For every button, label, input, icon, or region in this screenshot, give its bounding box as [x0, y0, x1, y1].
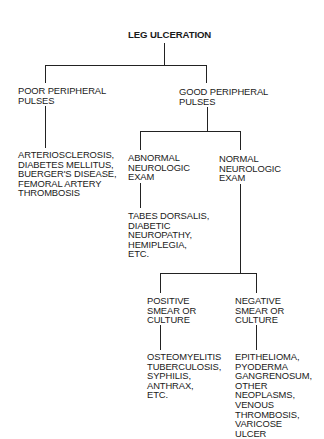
abnormal-neuro-node: ABNORMAL NEUROLOGIC EXAM	[128, 153, 190, 182]
connector-root-down	[164, 43, 165, 65]
poor-pulses-causes: ARTERIOSCLEROSIS, DIABETES MELLITUS, BUE…	[18, 150, 116, 198]
connector-positive-to-causes	[160, 325, 161, 350]
normal-neuro-node: NORMAL NEUROLOGIC EXAM	[219, 154, 281, 183]
connector-negative-to-causes	[256, 325, 257, 350]
abnormal-neuro-causes: TABES DORSALIS, DIABETIC NEUROPATHY, HEM…	[128, 211, 209, 259]
connector-normal-horizontal	[160, 273, 257, 274]
positive-smear-causes: OSTEOMYELITIS TUBERCULOSIS, SYPHILIS, AN…	[147, 352, 221, 400]
good-pulses-node: GOOD PERIPHERAL PULSES	[179, 87, 268, 106]
connector-normal-down	[240, 184, 241, 273]
root-node: LEG ULCERATION	[128, 30, 211, 40]
positive-smear-node: POSITIVE SMEAR OR CULTURE	[147, 296, 196, 325]
connector-poor-to-causes	[45, 106, 46, 148]
connector-good-horizontal	[140, 131, 241, 132]
connector-root-horizontal	[45, 65, 207, 66]
connector-abnormal-to-causes	[140, 183, 141, 208]
connector-good-down	[207, 107, 208, 131]
connector-to-normal	[240, 131, 241, 150]
connector-to-good	[206, 65, 207, 83]
connector-to-poor	[45, 65, 46, 83]
poor-pulses-node: POOR PERIPHERAL PULSES	[18, 86, 106, 105]
connector-to-negative	[256, 273, 257, 293]
connector-to-positive	[160, 273, 161, 293]
negative-smear-causes: EPITHELIOMA, PYODERMA GANGRENOSUM, OTHER…	[235, 352, 312, 438]
connector-to-abnormal	[140, 131, 141, 150]
negative-smear-node: NEGATIVE SMEAR OR CULTURE	[235, 296, 284, 325]
